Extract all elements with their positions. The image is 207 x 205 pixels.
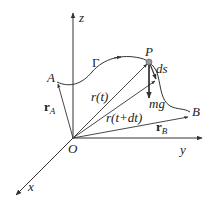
vector-r-t-dt-label: r(t+dt) [106,110,142,125]
vector-r-a [58,84,73,138]
curve-gamma [57,57,190,112]
curve-direction-arrow [114,57,121,58]
x-axis [16,138,73,195]
x-axis-label: x [27,179,34,194]
y-axis-label: y [178,142,186,157]
point-b-label: B [192,104,200,119]
line-integral-diagram: z y x O A P B Γ rA r(t) r(t+dt) rB ds mg [0,0,207,205]
point-p [146,59,152,65]
r-b-sub: B [162,126,168,136]
r-a-sub: A [49,106,56,116]
point-p-label: P [144,44,153,59]
curve-gamma-label: Γ [92,55,100,70]
vector-r-a-label: rA [44,99,56,116]
mg-label: mg [149,96,165,111]
vector-r-t-label: r(t) [91,89,108,104]
point-a-label: A [46,70,55,85]
origin-label: O [68,141,78,156]
z-axis-label: z [78,10,84,25]
ds-label: ds [156,61,168,76]
